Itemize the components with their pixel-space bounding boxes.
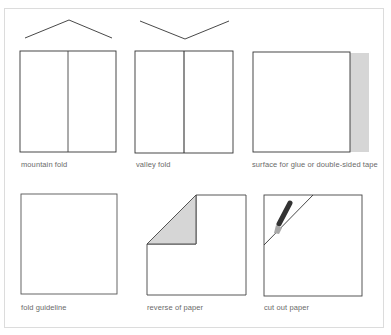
valley-fold-profile bbox=[140, 21, 229, 39]
cut-paper-square bbox=[264, 195, 362, 296]
label-mountain-fold: mountain fold bbox=[21, 160, 67, 169]
reverse-paper-body bbox=[147, 195, 246, 295]
fold-guideline-icon bbox=[21, 194, 117, 294]
reverse-paper-icon bbox=[147, 195, 246, 295]
label-valley-fold: valley fold bbox=[136, 160, 170, 169]
label-fold-guideline: fold guideline bbox=[21, 303, 67, 312]
label-cut-out-paper: cut out paper bbox=[264, 303, 309, 312]
mountain-fold-profile bbox=[25, 20, 112, 38]
cut-out-paper-icon bbox=[264, 195, 362, 296]
valley-fold-icon bbox=[135, 21, 233, 153]
fold-guideline-square bbox=[21, 194, 117, 294]
glue-surface-icon bbox=[253, 52, 369, 152]
label-reverse-paper: reverse of paper bbox=[147, 303, 203, 312]
label-glue-surface: surface for glue or double-sided tape bbox=[252, 160, 378, 169]
glue-tab-shade bbox=[350, 53, 369, 152]
reverse-paper-flap bbox=[147, 195, 196, 244]
glue-surface-square bbox=[253, 52, 350, 152]
mountain-fold-icon bbox=[20, 20, 116, 152]
